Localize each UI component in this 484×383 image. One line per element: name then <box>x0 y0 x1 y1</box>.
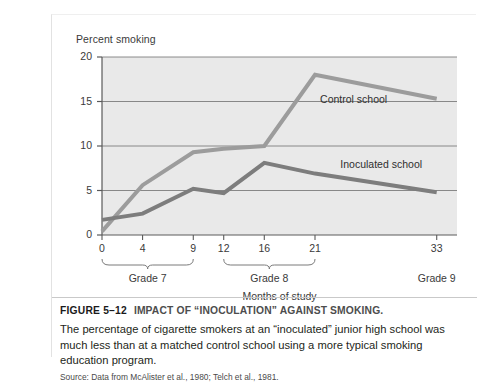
caption-heading: FIGURE 5–12IMPACT OF “INOCULATION” AGAIN… <box>60 303 469 318</box>
figure-title: IMPACT OF “INOCULATION” AGAINST SMOKING. <box>134 305 384 316</box>
y-tick-label-0: 0 <box>68 228 92 240</box>
caption-body: The percentage of cigarette smokers at a… <box>60 322 469 369</box>
grade-group-label-grade-8: Grade 8 <box>250 272 288 284</box>
chart-plot-area: Percent smoking 0 5 10 15 20 0 <box>52 15 477 291</box>
x-tick-label-21: 21 <box>309 242 321 254</box>
x-tick-label-0: 0 <box>99 242 105 254</box>
grade-bracket-7 <box>102 259 193 269</box>
caption-divider <box>52 297 477 298</box>
y-tick-label-20: 20 <box>68 50 92 62</box>
caption-source: Source: Data from McAlister et al., 1980… <box>60 372 469 383</box>
series-annotation-control-school: Control school <box>320 93 387 105</box>
grade-group-label-grade-7: Grade 7 <box>129 272 167 284</box>
x-tick-label-33: 33 <box>431 242 443 254</box>
x-tick-label-12: 12 <box>218 242 230 254</box>
grade-brackets <box>102 259 315 269</box>
grade-group-label-grade-9: Grade 9 <box>418 272 456 284</box>
figure-caption: FIGURE 5–12IMPACT OF “INOCULATION” AGAIN… <box>52 303 477 383</box>
x-axis-title: Months of study <box>242 290 316 302</box>
x-tick-label-4: 4 <box>140 242 146 254</box>
x-tick-label-9: 9 <box>190 242 196 254</box>
figure-card: Percent smoking 0 5 10 15 20 0 <box>51 14 476 357</box>
y-tick-label-15: 15 <box>68 95 92 107</box>
series-annotation-inoculated-school: Inoculated school <box>340 158 422 170</box>
y-tick-label-5: 5 <box>68 184 92 196</box>
y-tick-marks <box>97 57 102 235</box>
figure-number: FIGURE 5–12 <box>60 305 127 316</box>
x-tick-marks <box>102 235 437 240</box>
grade-bracket-8 <box>224 259 315 269</box>
y-tick-label-10: 10 <box>68 139 92 151</box>
x-tick-label-16: 16 <box>258 242 270 254</box>
